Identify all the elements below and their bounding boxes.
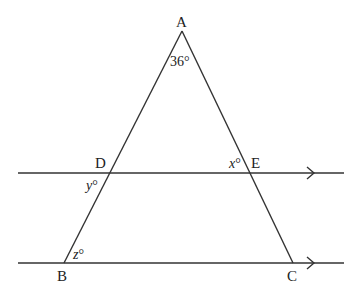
angle-label-y: y° [84,178,98,193]
vertex-label-e: E [251,155,260,171]
side-ac [182,31,293,263]
geometry-diagram: A D E B C 36° x° y° z° [0,0,359,295]
side-ab [64,31,182,263]
vertex-label-c: C [287,268,297,284]
vertex-label-d: D [95,155,106,171]
angle-label-x: x° [228,156,241,171]
vertex-label-b: B [57,268,67,284]
vertex-label-a: A [176,14,187,30]
diagram-svg: A D E B C 36° x° y° z° [0,0,359,295]
angle-label-a: 36° [170,54,190,69]
angle-label-z: z° [72,247,84,262]
